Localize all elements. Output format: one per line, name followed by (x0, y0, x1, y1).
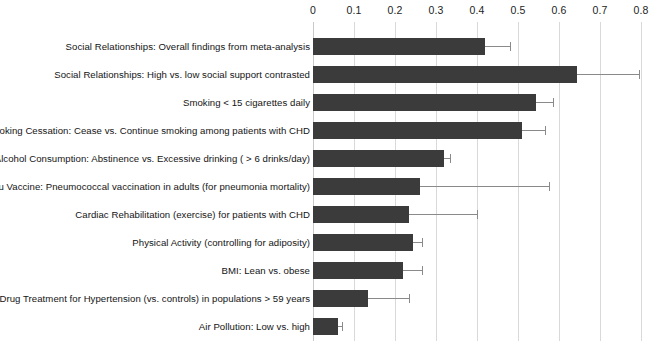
x-tick-label-0-7: 0.7 (593, 4, 608, 16)
bar (313, 234, 413, 251)
bar (313, 262, 403, 279)
bar-row: Physical Activity (controlling for adipo… (0, 229, 655, 257)
error-bar-cap (409, 294, 410, 303)
bar-row: BMI: Lean vs. obese (0, 257, 655, 285)
error-bar-line (577, 74, 639, 75)
error-bar-line (485, 46, 510, 47)
error-bar-line (409, 214, 477, 215)
bar-category-label: Air Pollution: Low vs. high (199, 313, 310, 341)
error-bar-cap (342, 322, 343, 331)
bar-row: Social Relationships: High vs. low socia… (0, 61, 655, 89)
error-bar-line (413, 242, 421, 243)
x-tick-label-0-6: 0.6 (552, 4, 567, 16)
bar-category-label: Cardiac Rehabilitation (exercise) for pa… (75, 201, 310, 229)
bar-category-label: Social Relationships: Overall findings f… (66, 33, 310, 61)
bar (313, 318, 338, 335)
bar-rows: Social Relationships: Overall findings f… (0, 22, 655, 341)
error-bar-line (420, 186, 549, 187)
error-bar-cap (422, 238, 423, 247)
x-tick-label-0-2: 0.2 (388, 4, 403, 16)
error-bar-cap (450, 154, 451, 163)
x-tick-label-0-3: 0.3 (429, 4, 444, 16)
error-bar-cap (545, 126, 546, 135)
bar-category-label: BMI: Lean vs. obese (222, 257, 310, 285)
bar-category-label: Drug Treatment for Hypertension (vs. con… (0, 285, 310, 313)
bar (313, 178, 420, 195)
bar-row: Social Relationships: Overall findings f… (0, 33, 655, 61)
horizontal-bar-chart: 00.10.20.30.40.50.60.70.8 Social Relatio… (0, 0, 655, 341)
error-bar-line (522, 130, 545, 131)
x-tick-label-0: 0 (310, 4, 316, 16)
x-tick-label-0-5: 0.5 (511, 4, 526, 16)
bar-row: Flu Vaccine: Pneumococcal vaccination in… (0, 173, 655, 201)
bar-category-label: Physical Activity (controlling for adipo… (132, 229, 310, 257)
bar-row: Smoking Cessation: Cease vs. Continue sm… (0, 117, 655, 145)
bar (313, 206, 409, 223)
bar (313, 150, 444, 167)
bar-category-label: Alcohol Consumption: Abstinence vs. Exce… (0, 145, 310, 173)
error-bar-line (536, 102, 552, 103)
error-bar-cap (553, 98, 554, 107)
bar-row: Alcohol Consumption: Abstinence vs. Exce… (0, 145, 655, 173)
error-bar-line (368, 298, 409, 299)
bar-row: Air Pollution: Low vs. high (0, 313, 655, 341)
x-tick-label-0-8: 0.8 (634, 4, 649, 16)
bar-category-label: Smoking Cessation: Cease vs. Continue sm… (0, 117, 310, 145)
bar (313, 94, 536, 111)
bar-row: Drug Treatment for Hypertension (vs. con… (0, 285, 655, 313)
bar (313, 122, 522, 139)
error-bar-cap (510, 42, 511, 51)
bar-category-label: Flu Vaccine: Pneumococcal vaccination in… (0, 173, 310, 201)
bar-category-label: Social Relationships: High vs. low socia… (54, 61, 310, 89)
bar (313, 66, 577, 83)
error-bar-cap (549, 182, 550, 191)
x-tick-label-0-1: 0.1 (347, 4, 362, 16)
error-bar-line (403, 270, 421, 271)
bar-row: Cardiac Rehabilitation (exercise) for pa… (0, 201, 655, 229)
x-tick-label-0-4: 0.4 (470, 4, 485, 16)
bar-row: Smoking < 15 cigarettes daily (0, 89, 655, 117)
bar-category-label: Smoking < 15 cigarettes daily (183, 89, 310, 117)
bar (313, 38, 485, 55)
error-bar-cap (422, 266, 423, 275)
bar (313, 290, 368, 307)
error-bar-cap (477, 210, 478, 219)
error-bar-cap (639, 70, 640, 79)
x-axis-tick-labels: 00.10.20.30.40.50.60.70.8 (0, 0, 655, 22)
